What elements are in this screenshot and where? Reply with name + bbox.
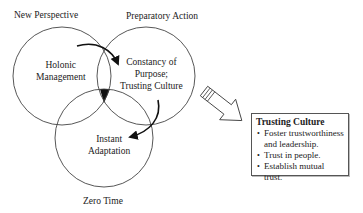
label-constancy-of-purpose: Constancy of Purpose; Trusting Culture [120,56,183,92]
callout-bullet: Trust in people. [256,150,344,161]
label-new-perspective: New Perspective [14,9,78,21]
trusting-culture-callout: Trusting Culture Foster trustworthiness … [251,113,349,176]
label-preparatory-action: Preparatory Action [126,10,198,22]
label-line: Holonic [36,59,86,71]
bullet-line: Foster trustworthiness [264,128,344,139]
callout-title: Trusting Culture [256,117,344,128]
curved-arrow-2-icon [130,100,159,137]
label-holonic-management: Holonic Management [36,59,86,83]
label-line: Purpose; [120,68,183,80]
callout-bullet: Establish mutual trust. [256,161,344,183]
label-line: Management [36,71,86,83]
label-zero-time: Zero Time [83,195,123,207]
callout-bullet-list: Foster trustworthiness and leadership. T… [256,128,344,183]
label-instant-adaptation: Instant Adaptation [88,133,130,157]
label-line: Instant [88,133,130,145]
label-line: Constancy of [120,56,183,68]
bullet-line: and leadership. [264,139,344,150]
hollow-arrow-icon [196,81,250,131]
label-line: Trusting Culture [120,80,183,92]
label-line: Adaptation [88,145,130,157]
callout-bullet: Foster trustworthiness and leadership. [256,128,344,150]
